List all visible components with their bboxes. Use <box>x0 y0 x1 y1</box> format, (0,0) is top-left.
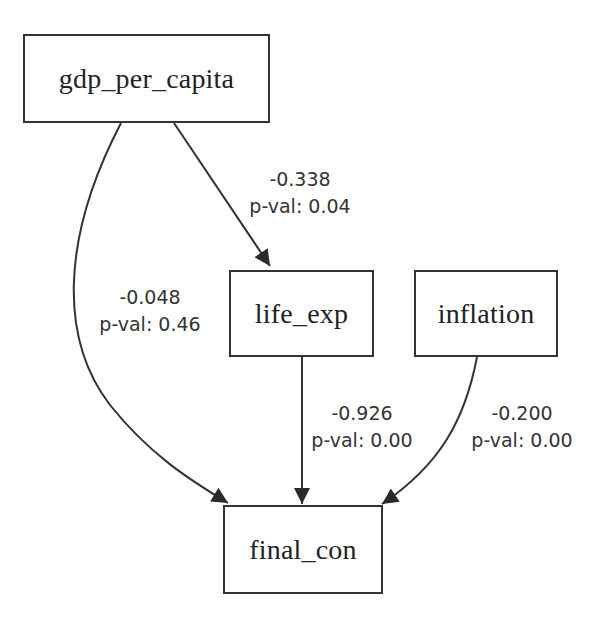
node-inflation: inflation <box>414 270 558 357</box>
p-value: p-val: 0.00 <box>460 427 584 454</box>
node-gdp-per-capita: gdp_per_capita <box>23 34 270 123</box>
edge-label-lifeexp-finalcon: -0.926 p-val: 0.00 <box>300 400 424 454</box>
node-label: final_con <box>249 534 357 566</box>
coefficient: -0.926 <box>300 400 424 427</box>
node-label: gdp_per_capita <box>59 63 234 95</box>
coefficient: -0.338 <box>238 166 362 193</box>
p-value: p-val: 0.00 <box>300 427 424 454</box>
edge-label-inflation-finalcon: -0.200 p-val: 0.00 <box>460 400 584 454</box>
node-life-exp: life_exp <box>229 270 374 357</box>
edge-label-gdp-finalcon: -0.048 p-val: 0.46 <box>88 284 212 338</box>
path-diagram: gdp_per_capita life_exp inflation final_… <box>0 0 604 626</box>
p-value: p-val: 0.04 <box>238 193 362 220</box>
node-final-con: final_con <box>223 505 383 594</box>
edge-label-gdp-lifeexp: -0.338 p-val: 0.04 <box>238 166 362 220</box>
coefficient: -0.048 <box>88 284 212 311</box>
p-value: p-val: 0.46 <box>88 311 212 338</box>
node-label: life_exp <box>255 298 348 330</box>
coefficient: -0.200 <box>460 400 584 427</box>
node-label: inflation <box>438 298 535 330</box>
